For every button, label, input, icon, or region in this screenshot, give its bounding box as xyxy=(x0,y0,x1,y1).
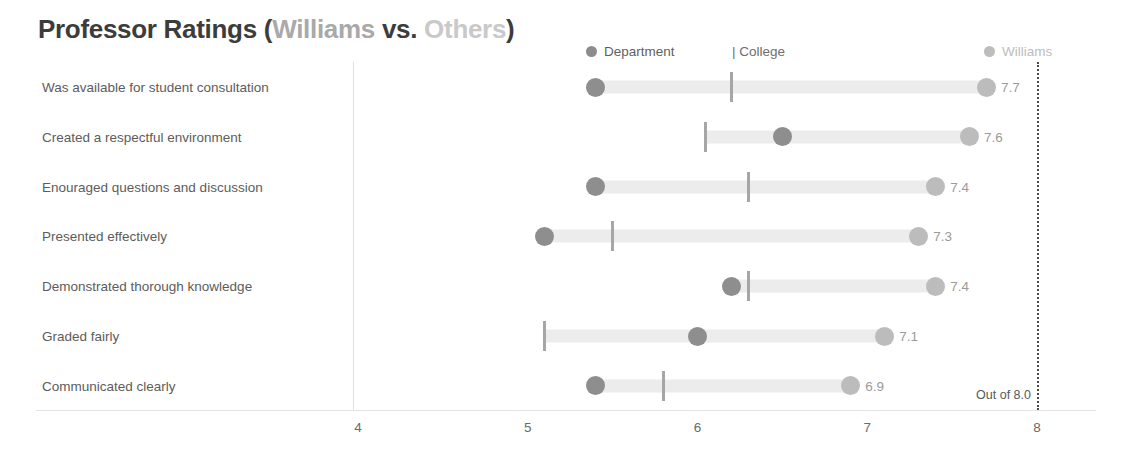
chart-row[interactable]: Demonstrated thorough knowledge7.4 xyxy=(0,261,1125,311)
title-vs: vs. xyxy=(375,14,424,44)
department-marker[interactable] xyxy=(688,327,707,346)
williams-marker[interactable] xyxy=(841,376,860,395)
chart-row[interactable]: Presented effectively7.3 xyxy=(0,211,1125,261)
williams-value-label: 7.3 xyxy=(933,229,952,244)
range-track xyxy=(545,230,918,243)
chart-row[interactable]: Graded fairly7.1 xyxy=(0,311,1125,361)
legend-item-williams[interactable]: Williams xyxy=(984,44,1052,59)
williams-marker[interactable] xyxy=(926,277,945,296)
x-axis-line xyxy=(36,410,1096,411)
row-label: Demonstrated thorough knowledge xyxy=(42,279,252,294)
department-marker[interactable] xyxy=(586,177,605,196)
williams-marker[interactable] xyxy=(909,227,928,246)
title-others: Others xyxy=(424,14,506,44)
legend-label-department: Department xyxy=(604,44,675,59)
williams-marker[interactable] xyxy=(977,78,996,97)
range-track xyxy=(596,180,936,193)
legend-label-williams: Williams xyxy=(1002,44,1052,59)
college-marker[interactable] xyxy=(747,271,750,301)
department-marker[interactable] xyxy=(586,376,605,395)
college-marker[interactable] xyxy=(662,371,665,401)
title-williams: Williams xyxy=(272,14,375,44)
legend-item-department[interactable]: Department xyxy=(586,44,675,59)
x-axis: 45678 xyxy=(0,410,1125,459)
williams-value-label: 7.7 xyxy=(1001,80,1020,95)
legend-item-college[interactable]: | College xyxy=(732,44,785,59)
college-marker[interactable] xyxy=(747,172,750,202)
row-label: Presented effectively xyxy=(42,229,167,244)
chart-row[interactable]: Enouraged questions and discussion7.4 xyxy=(0,162,1125,212)
college-marker[interactable] xyxy=(730,72,733,102)
williams-marker[interactable] xyxy=(960,127,979,146)
range-track xyxy=(596,81,986,94)
range-track xyxy=(596,379,851,392)
williams-value-label: 7.4 xyxy=(950,279,969,294)
williams-marker[interactable] xyxy=(875,327,894,346)
x-tick-label-8: 8 xyxy=(1033,420,1041,435)
out-of-annotation: Out of 8.0 xyxy=(976,388,1031,402)
title-paren-open: ( xyxy=(264,14,272,44)
row-label: Communicated clearly xyxy=(42,378,176,393)
x-tick-label-5: 5 xyxy=(524,420,532,435)
department-marker[interactable] xyxy=(586,78,605,97)
x-tick-label-7: 7 xyxy=(863,420,871,435)
williams-value-label: 7.4 xyxy=(950,179,969,194)
range-track xyxy=(545,330,885,343)
department-marker[interactable] xyxy=(722,277,741,296)
department-marker[interactable] xyxy=(535,227,554,246)
williams-value-label: 7.1 xyxy=(899,329,918,344)
title-paren-close: ) xyxy=(506,14,514,44)
title-main: Professor Ratings xyxy=(38,14,264,44)
chart-row[interactable]: Created a respectful environment7.6 xyxy=(0,112,1125,162)
row-label: Graded fairly xyxy=(42,329,119,344)
chart-legend: Department | College Williams xyxy=(0,44,1125,64)
range-track xyxy=(706,130,969,143)
row-label: Enouraged questions and discussion xyxy=(42,179,263,194)
department-dot-icon xyxy=(586,46,597,57)
williams-value-label: 6.9 xyxy=(865,378,884,393)
williams-marker[interactable] xyxy=(926,177,945,196)
college-marker[interactable] xyxy=(611,221,614,251)
row-label: Was available for student consultation xyxy=(42,80,269,95)
college-marker[interactable] xyxy=(704,122,707,152)
chart-row[interactable]: Communicated clearly6.9 xyxy=(0,361,1125,411)
williams-value-label: 7.6 xyxy=(984,129,1003,144)
college-marker[interactable] xyxy=(543,321,546,351)
row-label: Created a respectful environment xyxy=(42,129,242,144)
williams-dot-icon xyxy=(984,46,995,57)
legend-label-college: | College xyxy=(732,44,785,59)
department-marker[interactable] xyxy=(773,127,792,146)
x-tick-label-4: 4 xyxy=(354,420,362,435)
range-track xyxy=(731,280,935,293)
plot-area: Was available for student consultation7.… xyxy=(0,62,1125,410)
x-tick-label-6: 6 xyxy=(694,420,702,435)
chart-row[interactable]: Was available for student consultation7.… xyxy=(0,62,1125,112)
page-title: Professor Ratings (Williams vs. Others) xyxy=(38,14,514,45)
chart-page: Professor Ratings (Williams vs. Others) … xyxy=(0,0,1125,459)
